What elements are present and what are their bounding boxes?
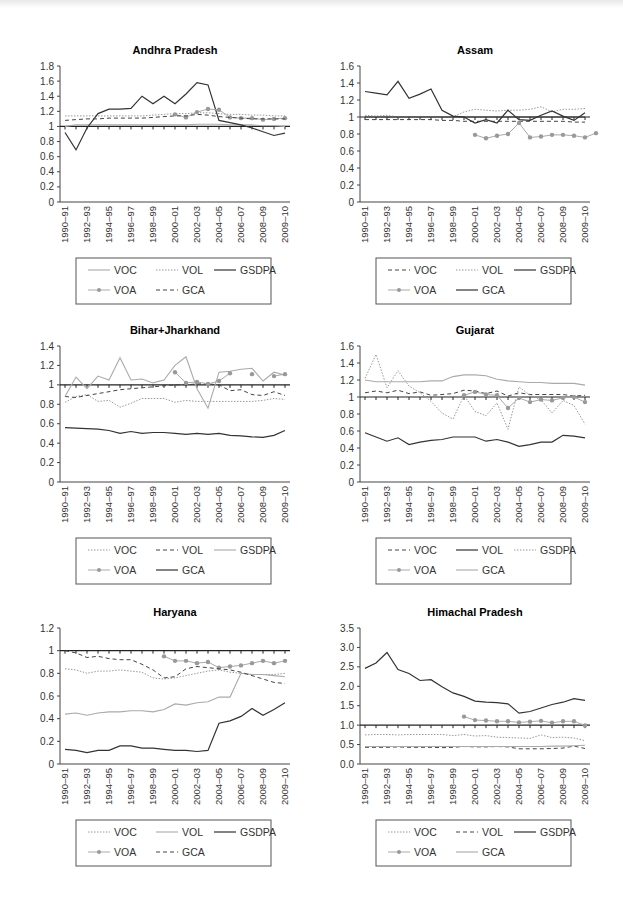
y-tick-label: 1.2 bbox=[40, 623, 54, 634]
x-tick-label: 1994–95 bbox=[403, 206, 414, 243]
legend-label: VOC bbox=[414, 264, 437, 276]
x-tick-label: 1992–93 bbox=[81, 768, 92, 805]
x-tick-label: 2006–07 bbox=[535, 206, 546, 243]
series-marker bbox=[484, 392, 488, 396]
y-tick-label: 1 bbox=[48, 379, 54, 390]
x-tick-label: 1998–99 bbox=[147, 206, 158, 243]
x-tick-label: 2006–07 bbox=[235, 768, 246, 805]
x-tick-label: 2006–07 bbox=[235, 486, 246, 523]
legend-label: GCA bbox=[482, 846, 505, 858]
series-line-voc bbox=[65, 669, 285, 679]
series-marker bbox=[517, 396, 521, 400]
y-tick-label: 0.8 bbox=[340, 409, 354, 420]
x-tick-label: 1996–97 bbox=[125, 206, 136, 243]
series-line-gca bbox=[65, 428, 285, 438]
x-tick-label: 1990–91 bbox=[59, 206, 70, 243]
x-tick-label: 1996–97 bbox=[125, 768, 136, 805]
x-tick-label: 1992–93 bbox=[381, 206, 392, 243]
legend-label: GCA bbox=[182, 564, 205, 576]
legend-label: VOL bbox=[482, 544, 503, 556]
y-tick-label: 0.2 bbox=[40, 736, 54, 747]
y-tick-label: 1.4 bbox=[340, 358, 354, 369]
series-marker bbox=[250, 661, 254, 665]
x-tick-label: 2006–07 bbox=[535, 486, 546, 523]
legend-label: VOL bbox=[182, 826, 203, 838]
x-tick-label: 2004–05 bbox=[513, 486, 524, 523]
legend-label: VOA bbox=[414, 284, 436, 296]
x-tick-label: 2002–03 bbox=[491, 768, 502, 805]
legend-label: VOA bbox=[114, 284, 136, 296]
series-marker bbox=[495, 134, 499, 138]
series-marker bbox=[272, 374, 276, 378]
x-tick-label: 2008–09 bbox=[257, 486, 268, 523]
legend-label: GCA bbox=[482, 284, 505, 296]
series-line-vol bbox=[365, 433, 585, 447]
legend-label: VOA bbox=[114, 846, 136, 858]
x-tick-label: 2009–10 bbox=[579, 768, 590, 805]
chart-title: Assam bbox=[457, 44, 493, 56]
series-marker bbox=[173, 370, 177, 374]
series-marker bbox=[184, 381, 188, 385]
series-marker bbox=[528, 400, 532, 404]
x-tick-label: 1992–93 bbox=[381, 768, 392, 805]
x-tick-label: 2004–05 bbox=[213, 768, 224, 805]
series-marker bbox=[206, 107, 210, 111]
x-tick-label: 1994–95 bbox=[403, 768, 414, 805]
y-tick-label: 0.6 bbox=[340, 146, 354, 157]
y-tick-label: 2.5 bbox=[340, 661, 354, 672]
series-marker bbox=[528, 135, 532, 139]
y-tick-label: 1.2 bbox=[40, 106, 54, 117]
x-tick-label: 1994–95 bbox=[103, 768, 114, 805]
series-marker bbox=[206, 382, 210, 386]
series-line-voa bbox=[464, 392, 585, 408]
x-tick-label: 2008–09 bbox=[257, 768, 268, 805]
y-tick-label: 1 bbox=[348, 392, 354, 403]
x-tick-label: 2000–01 bbox=[169, 486, 180, 523]
series-line-gsdpa bbox=[65, 357, 285, 409]
y-tick-label: 3.0 bbox=[340, 642, 354, 653]
x-tick-label: 1998–99 bbox=[447, 486, 458, 523]
x-tick-label: 2008–09 bbox=[557, 768, 568, 805]
legend-label: VOA bbox=[114, 564, 136, 576]
x-tick-label: 1996–97 bbox=[425, 206, 436, 243]
series-marker bbox=[495, 393, 499, 397]
series-marker bbox=[572, 395, 576, 399]
x-tick-label: 2008–09 bbox=[557, 206, 568, 243]
series-marker bbox=[539, 397, 543, 401]
x-tick-label: 1996–97 bbox=[425, 486, 436, 523]
legend-label: VOA bbox=[414, 564, 436, 576]
y-tick-label: 0.0 bbox=[340, 759, 354, 770]
series-marker bbox=[561, 719, 565, 723]
series-marker bbox=[484, 718, 488, 722]
y-tick-label: 0.6 bbox=[40, 418, 54, 429]
x-tick-label: 2009–10 bbox=[579, 206, 590, 243]
y-tick-label: 1 bbox=[348, 112, 354, 123]
page-header-strip bbox=[0, 0, 623, 8]
legend-label: GSDPA bbox=[240, 264, 276, 276]
legend-label: VOA bbox=[414, 846, 436, 858]
y-tick-label: 0 bbox=[48, 759, 54, 770]
y-tick-label: 1.4 bbox=[340, 78, 354, 89]
x-tick-label: 2002–03 bbox=[191, 768, 202, 805]
y-tick-label: 0.6 bbox=[40, 151, 54, 162]
chart-gujarat: Gujarat00.20.40.60.811.21.41.61990–91199… bbox=[318, 322, 618, 612]
y-tick-label: 1.2 bbox=[40, 360, 54, 371]
chart-bihar-jharkhand: Bihar+Jharkhand00.20.40.60.811.21.41990–… bbox=[18, 322, 318, 612]
x-tick-label: 1990–91 bbox=[59, 768, 70, 805]
y-tick-label: 1.6 bbox=[340, 61, 354, 72]
y-tick-label: 1.4 bbox=[40, 341, 54, 352]
series-marker bbox=[506, 719, 510, 723]
y-tick-label: 0.8 bbox=[40, 668, 54, 679]
y-tick-label: 3.5 bbox=[340, 623, 354, 634]
y-tick-label: 1.8 bbox=[40, 61, 54, 72]
chart-andhra-pradesh: Andhra Pradesh00.20.40.60.811.21.41.61.8… bbox=[18, 42, 318, 332]
x-tick-label: 2002–03 bbox=[191, 206, 202, 243]
x-tick-label: 2009–10 bbox=[279, 768, 290, 805]
y-tick-label: 1.6 bbox=[340, 341, 354, 352]
y-tick-label: 0 bbox=[348, 477, 354, 488]
series-marker bbox=[217, 379, 221, 383]
x-tick-label: 1992–93 bbox=[81, 486, 92, 523]
y-tick-label: 0 bbox=[48, 477, 54, 488]
series-marker bbox=[583, 135, 587, 139]
x-tick-label: 2006–07 bbox=[235, 206, 246, 243]
